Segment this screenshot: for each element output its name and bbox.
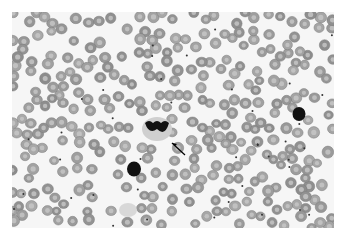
micrograph — [12, 12, 334, 228]
blood-smear-image — [12, 12, 334, 228]
